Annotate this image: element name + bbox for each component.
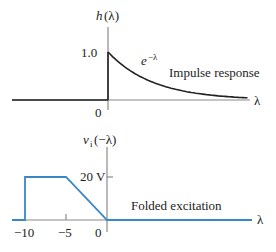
top-y-label-arg: (λ)	[104, 8, 119, 23]
bottom-x-axis-label: λ	[257, 212, 264, 227]
curve-label-base: e	[141, 53, 147, 68]
folded-excitation-plot: v i (−λ) 20 V −10 −5 0 λ Folded excitati…	[12, 132, 264, 240]
bottom-x-tick-label-minus5: −5	[58, 225, 72, 240]
diagram-canvas: h (λ) 1.0 0 λ e −λ Impulse response v i …	[0, 0, 276, 252]
top-y-tick-label: 1.0	[81, 45, 97, 60]
bottom-y-label-arg: (−λ)	[94, 132, 116, 147]
bottom-y-label-fn: v	[83, 132, 89, 147]
bottom-y-label-sub: i	[90, 139, 93, 149]
top-x-axis-label: λ	[254, 93, 261, 108]
impulse-response-plot: h (λ) 1.0 0 λ e −λ Impulse response	[12, 8, 261, 120]
top-y-label-fn: h	[96, 8, 103, 23]
top-origin-label: 0	[95, 105, 102, 120]
bottom-y-tick-label: 20 V	[80, 169, 106, 184]
bottom-x-tick-label-0: 0	[95, 225, 102, 240]
impulse-response-caption: Impulse response	[169, 65, 260, 80]
curve-label-exponent: −λ	[148, 52, 158, 62]
bottom-x-tick-label-minus10: −10	[14, 225, 34, 240]
folded-excitation-caption: Folded excitation	[131, 198, 222, 213]
